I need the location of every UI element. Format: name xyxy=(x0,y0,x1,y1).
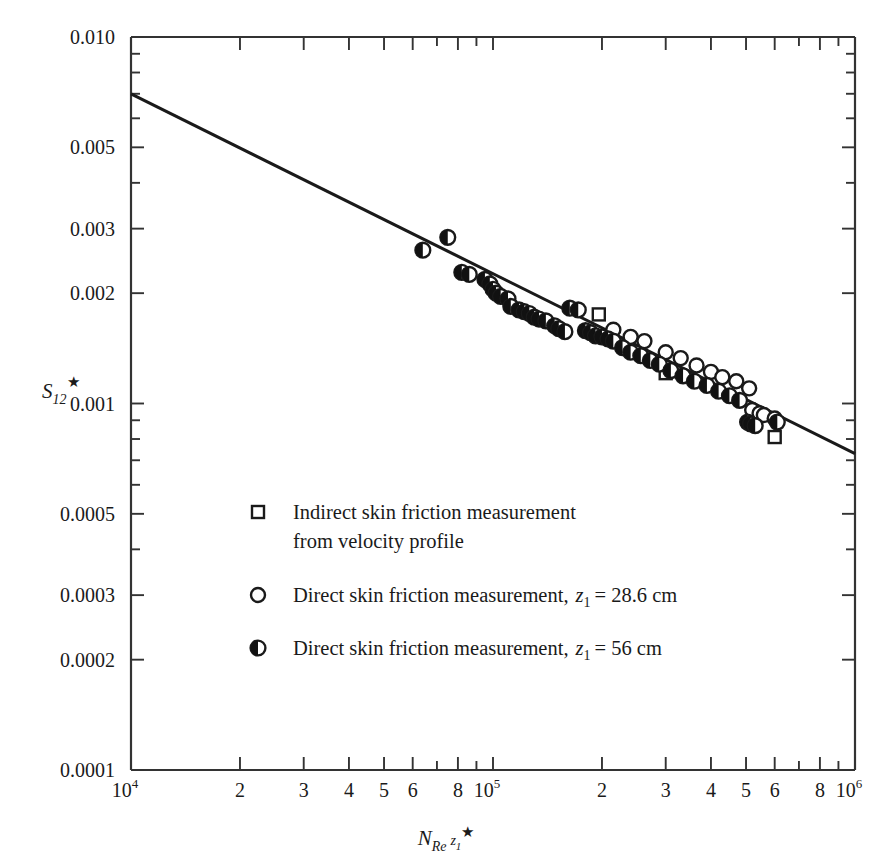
x-tick-label: 104 xyxy=(112,776,139,801)
legend-marker-3[interactable] xyxy=(251,641,266,656)
y-tick-label: 0.003 xyxy=(70,218,115,240)
x-axis-title: NRez1★ xyxy=(417,824,475,854)
y-tick-label: 0.010 xyxy=(70,26,115,48)
legend-marker-2[interactable] xyxy=(251,588,265,602)
x-tick-label: 6 xyxy=(408,779,418,801)
x-tick-label: 5 xyxy=(379,779,389,801)
y-tick-label: 0.0002 xyxy=(60,649,115,671)
y-tick-label: 0.0003 xyxy=(60,584,115,606)
legend: Indirect skin friction measurementfrom v… xyxy=(251,501,678,663)
figure-container: 0.0100.0050.0030.0020.0010.00050.00030.0… xyxy=(0,0,889,868)
legend-marker-1[interactable] xyxy=(252,506,264,518)
marker-open-circle xyxy=(715,370,729,384)
marker-open-circle xyxy=(690,358,704,372)
x-tick-label: 5 xyxy=(741,779,751,801)
x-tick-label: 2 xyxy=(597,779,607,801)
marker-open-circle xyxy=(729,374,743,388)
y-tick-label: 0.005 xyxy=(70,136,115,158)
marker-open-circle xyxy=(637,334,651,348)
marker-open-circle xyxy=(251,588,265,602)
x-tick-label: 3 xyxy=(299,779,309,801)
marker-open-square xyxy=(593,308,605,320)
x-tick-label: 4 xyxy=(344,779,354,801)
legend-label-3: Direct skin friction measurement,z1= 56 … xyxy=(293,637,662,663)
x-tick-labels: 104234568105234568106 xyxy=(112,776,863,801)
series-3 xyxy=(415,230,784,433)
legend-label-1-line2: from velocity profile xyxy=(293,530,464,553)
x-tick-label: 2 xyxy=(235,779,245,801)
marker-open-square xyxy=(769,431,781,443)
y-tick-label: 0.0005 xyxy=(60,503,115,525)
legend-label-1: Indirect skin friction measurement xyxy=(293,501,576,523)
legend-label-2: Direct skin friction measurement,z1= 28.… xyxy=(293,584,677,610)
scatter-plot: 0.0100.0050.0030.0020.0010.00050.00030.0… xyxy=(0,0,889,868)
x-tick-label: 8 xyxy=(453,779,463,801)
y-tick-label: 0.0001 xyxy=(60,759,115,781)
y-tick-labels: 0.0100.0050.0030.0020.0010.00050.00030.0… xyxy=(60,26,115,781)
x-tick-label: 105 xyxy=(474,776,501,801)
x-tick-label: 3 xyxy=(661,779,671,801)
marker-open-circle xyxy=(674,351,688,365)
x-tick-label: 8 xyxy=(815,779,825,801)
x-tick-label: 106 xyxy=(836,776,863,801)
marker-open-square xyxy=(252,506,264,518)
y-tick-label: 0.002 xyxy=(70,282,115,304)
x-tick-label: 4 xyxy=(706,779,716,801)
y-tick-label: 0.001 xyxy=(70,393,115,415)
x-tick-label: 6 xyxy=(770,779,780,801)
